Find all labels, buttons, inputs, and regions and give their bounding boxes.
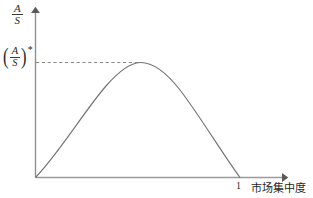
y-axis-label-fraction: A S [12, 3, 23, 26]
x-axis-label: 市场集中度 [251, 179, 306, 195]
plot-canvas [0, 0, 313, 198]
optimum-label-asterisk: * [28, 45, 33, 55]
y-axis-label: A S [12, 3, 23, 26]
y-axis-label-denominator: S [12, 15, 23, 26]
optimum-value-label: ( A S )* [2, 46, 33, 69]
advertising-intensity-figure: A S ( A S )* 1 市场集中度 [0, 0, 313, 198]
optimum-label-fraction: A S [10, 46, 20, 68]
advertising-intensity-curve [36, 62, 241, 177]
optimum-label-denominator: S [10, 58, 20, 69]
x-axis-tick-label-one: 1 [236, 180, 241, 191]
optimum-label-open-paren: ( [3, 45, 9, 68]
optimum-label-close-paren: ) [21, 45, 27, 68]
